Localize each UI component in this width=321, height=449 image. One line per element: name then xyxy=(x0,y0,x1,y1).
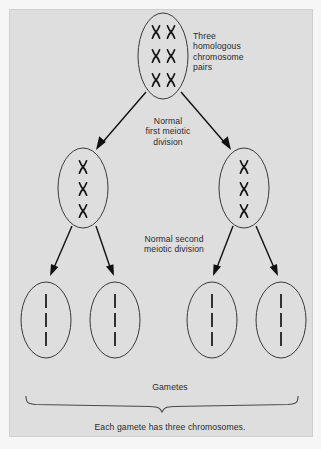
parent-cell-outline xyxy=(138,13,188,99)
label-second-meiotic-division: Normal second meiotic division xyxy=(122,234,226,255)
figure-root: Three homologous chromosome pairs Normal… xyxy=(0,0,321,449)
label-summary-caption: Each gamete has three chromosomes. xyxy=(55,422,285,432)
gametes-brace xyxy=(26,396,298,412)
gamete-cell-4-group xyxy=(256,282,306,358)
daughter-cell-right-group xyxy=(219,148,269,228)
label-gametes: Gametes xyxy=(120,382,220,392)
meiosis-diagram-svg xyxy=(10,10,313,437)
gamete-cell-3-group xyxy=(187,282,237,358)
arrow-right-daughter-to-gamete-4 xyxy=(256,226,278,276)
diagram-panel: Three homologous chromosome pairs Normal… xyxy=(9,9,313,437)
arrow-left-daughter-to-gamete-2 xyxy=(96,226,114,276)
daughter-cell-left-group xyxy=(58,148,108,228)
parent-cell-group xyxy=(138,13,188,99)
label-first-meiotic-division: Normal first meiotic division xyxy=(122,116,214,147)
arrow-left-daughter-to-gamete-1 xyxy=(50,226,72,276)
gamete-cell-1-group xyxy=(21,282,71,358)
gamete-cell-2-group xyxy=(90,282,140,358)
label-homologous-pairs: Three homologous chromosome pairs xyxy=(193,31,244,73)
